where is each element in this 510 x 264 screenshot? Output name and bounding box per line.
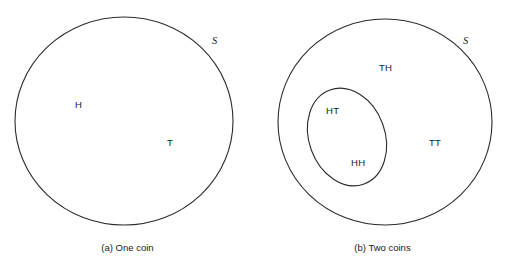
- figure-root: S H T (a) One coin S TH HT HH TT (b) Two…: [0, 0, 510, 264]
- outcome-label-th: TH: [379, 63, 392, 73]
- outcome-label-t: T: [167, 138, 173, 148]
- set-label-s-a: S: [212, 36, 217, 47]
- panel-caption-one-coin: (a) One coin: [0, 243, 255, 253]
- outcome-label-h: H: [75, 100, 82, 110]
- set-label-s-b: S: [463, 36, 468, 47]
- panel-caption-two-coins: (b) Two coins: [255, 243, 510, 253]
- venn-panel-two-coins: S TH HT HH TT (b) Two coins: [255, 0, 510, 264]
- sample-space-circle-a: [15, 17, 233, 225]
- outcome-label-ht: HT: [326, 106, 339, 116]
- outcome-label-hh: HH: [351, 158, 365, 168]
- venn-diagram-two-coins: [255, 0, 510, 264]
- outcome-label-tt: TT: [429, 138, 441, 148]
- venn-panel-one-coin: S H T (a) One coin: [0, 0, 255, 264]
